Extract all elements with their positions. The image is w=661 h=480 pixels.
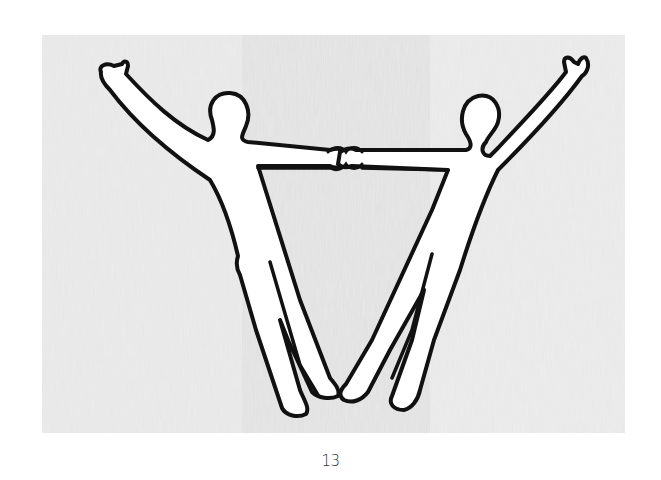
page-number: 13 — [0, 452, 661, 470]
figures-drawing — [42, 35, 625, 433]
illustration — [42, 35, 625, 433]
document-page: 13 — [0, 0, 661, 480]
